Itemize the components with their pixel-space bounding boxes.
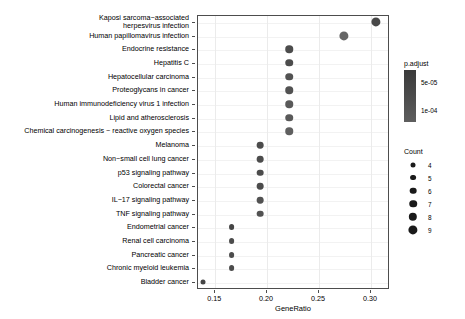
y-axis-label: Non−small cell lung cancer <box>103 155 189 163</box>
color-legend-tick <box>416 110 419 111</box>
gridline-vertical <box>319 16 320 288</box>
y-axis-tick <box>192 214 195 215</box>
data-point <box>229 252 235 258</box>
data-point <box>229 224 235 230</box>
gridline-horizontal <box>198 78 388 79</box>
y-axis-label: Pancreatic cancer <box>131 251 189 259</box>
gridline-horizontal <box>198 64 388 65</box>
data-point <box>257 183 264 190</box>
size-legend-label: 6 <box>428 187 432 194</box>
y-axis-tick <box>192 22 195 23</box>
size-legend-dot <box>410 175 416 181</box>
y-axis-tick <box>192 241 195 242</box>
gridline-horizontal <box>198 37 388 38</box>
y-axis-label: Kaposi sarcoma−associatedherpesvirus inf… <box>99 14 189 30</box>
y-axis-tick <box>192 145 195 146</box>
gridline-horizontal <box>198 146 388 147</box>
data-point <box>257 169 264 176</box>
size-legend-title: Count <box>404 148 465 155</box>
data-point <box>229 238 235 244</box>
data-point <box>257 210 264 217</box>
y-axis-tick <box>192 36 195 37</box>
y-axis-tick <box>192 90 195 91</box>
gridline-horizontal <box>198 242 388 243</box>
size-legend-dot <box>410 187 417 194</box>
x-axis-title: GeneRatio <box>197 304 389 313</box>
y-axis-label: Melanoma <box>155 141 189 149</box>
data-point <box>200 280 205 285</box>
x-axis-tick <box>318 290 319 293</box>
gridline-horizontal <box>198 132 388 133</box>
y-axis-tick <box>192 131 195 132</box>
data-point <box>285 128 293 136</box>
size-legend: Count 456789 <box>404 148 465 236</box>
y-axis-label: Bladder cancer <box>141 278 189 286</box>
y-axis-tick <box>192 282 195 283</box>
data-point <box>285 73 293 81</box>
gridline-horizontal <box>198 283 388 284</box>
x-axis-tick <box>214 290 215 293</box>
y-axis-label: IL−17 signaling pathway <box>112 196 189 204</box>
gridline-horizontal <box>198 174 388 175</box>
y-axis-tick <box>192 118 195 119</box>
y-axis-tick <box>192 255 195 256</box>
data-point <box>285 100 293 108</box>
gridline-horizontal <box>198 187 388 188</box>
color-legend-label: 1e-04 <box>421 107 437 114</box>
x-axis-tick <box>266 290 267 293</box>
y-axis-label: Endocrine resistance <box>122 45 189 53</box>
y-axis-label: Human papillomavirus infection <box>89 31 189 39</box>
y-axis-label: Colorectal cancer <box>133 182 189 190</box>
x-axis-tick <box>370 290 371 293</box>
size-legend-dot <box>408 225 417 234</box>
y-axis-label: Hepatitis C <box>154 59 189 67</box>
y-axis-tick <box>192 104 195 105</box>
x-axis-tick-label: 0.15 <box>207 294 221 303</box>
y-axis-tick <box>192 49 195 50</box>
size-legend-label: 7 <box>428 200 432 207</box>
data-point <box>257 142 264 149</box>
x-axis-tick-label: 0.30 <box>363 294 377 303</box>
x-axis-tick-label: 0.20 <box>259 294 273 303</box>
y-axis-tick <box>192 77 195 78</box>
y-axis-label: Human immunodeficiency virus 1 infection <box>54 100 189 108</box>
y-axis-tick <box>192 173 195 174</box>
color-legend-title: p.adjust <box>404 60 465 67</box>
y-axis-tick <box>192 268 195 269</box>
size-legend-row: 7 <box>404 197 465 210</box>
y-axis-tick <box>192 186 195 187</box>
color-legend-label: 5e-05 <box>421 78 437 85</box>
y-axis-tick <box>192 63 195 64</box>
gridline-horizontal <box>198 119 388 120</box>
y-axis-tick <box>192 200 195 201</box>
y-axis-label: Hepatocellular carcinoma <box>108 73 189 81</box>
size-legend-row: 8 <box>404 210 465 223</box>
gridline-vertical <box>215 16 216 288</box>
gridline-horizontal <box>198 50 388 51</box>
data-point <box>285 59 293 67</box>
color-legend: p.adjust 5e-051e-04 <box>404 60 465 122</box>
gridline-horizontal <box>198 228 388 229</box>
x-axis-tick-label: 0.25 <box>311 294 325 303</box>
size-legend-row: 9 <box>404 223 465 236</box>
data-point <box>285 114 293 122</box>
y-axis-label: Proteoglycans in cancer <box>112 86 189 94</box>
size-legend-label: 4 <box>428 161 432 168</box>
color-legend-tick <box>416 82 419 83</box>
gridline-horizontal <box>198 91 388 92</box>
size-legend-label: 8 <box>428 213 432 220</box>
size-legend-label: 5 <box>428 174 432 181</box>
gridline-vertical <box>267 16 268 288</box>
size-legend-dot <box>409 212 417 220</box>
gridline-horizontal <box>198 256 388 257</box>
y-axis-tick <box>192 227 195 228</box>
size-legend-label: 9 <box>428 226 432 233</box>
size-legend-dot <box>409 200 417 208</box>
y-axis-label: Chronic myeloid leukemia <box>107 264 189 272</box>
color-legend-bar: 5e-051e-04 <box>404 70 416 122</box>
size-legend-row: 6 <box>404 184 465 197</box>
data-point <box>229 266 235 272</box>
data-point <box>257 197 264 204</box>
gridline-horizontal <box>198 215 388 216</box>
data-point <box>285 45 293 53</box>
